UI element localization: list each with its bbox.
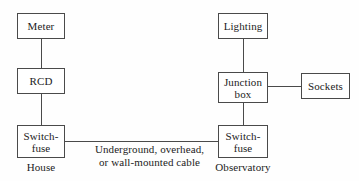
caption-house: House bbox=[17, 161, 65, 174]
connector-junction-box-to-switch-fuse bbox=[243, 103, 244, 125]
box-meter[interactable]: Meter bbox=[17, 13, 65, 39]
box-switch-fuse-observatory[interactable]: Switch- fuse bbox=[218, 125, 268, 158]
connector-meter-to-rcd bbox=[41, 39, 42, 69]
box-meter-label: Meter bbox=[28, 20, 55, 32]
box-switch-fuse-observatory-label: Switch- fuse bbox=[226, 130, 261, 154]
box-sockets-label: Sockets bbox=[308, 80, 343, 92]
connector-rcd-to-switch-fuse bbox=[41, 94, 42, 125]
caption-cable: Underground, overhead, or wall-mounted c… bbox=[77, 143, 222, 169]
box-switch-fuse-house[interactable]: Switch- fuse bbox=[17, 125, 65, 158]
block-diagram: Meter RCD Switch- fuse Lighting Junction… bbox=[0, 0, 359, 181]
box-junction-box[interactable]: Junction box bbox=[218, 72, 268, 103]
box-sockets[interactable]: Sockets bbox=[301, 73, 350, 99]
connector-lighting-to-junction-box bbox=[243, 39, 244, 72]
box-rcd[interactable]: RCD bbox=[17, 68, 65, 94]
box-lighting[interactable]: Lighting bbox=[218, 13, 268, 39]
box-lighting-label: Lighting bbox=[224, 20, 263, 32]
caption-observatory: Observatory bbox=[208, 161, 278, 174]
box-rcd-label: RCD bbox=[30, 75, 53, 87]
connector-house-to-observatory-cable bbox=[65, 141, 219, 142]
box-junction-box-label: Junction box bbox=[224, 76, 262, 100]
box-switch-fuse-house-label: Switch- fuse bbox=[24, 130, 59, 154]
connector-junction-box-to-sockets bbox=[268, 86, 301, 87]
